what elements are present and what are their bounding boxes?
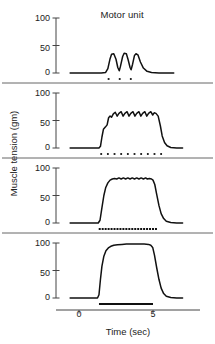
panel-4-ytick-0: 0 [26, 292, 50, 302]
motor-unit-tension-figure: Motor unit Muscle tension (gm) Time (sec… [0, 0, 215, 344]
panel-3-ytick-100: 100 [26, 163, 50, 173]
panel-2-ytick-100: 100 [26, 88, 50, 98]
panel-1-ytick-0: 0 [26, 67, 50, 77]
xtick-label-0: 0 [69, 309, 89, 319]
panel-3-ytick-0: 0 [26, 217, 50, 227]
panel-1-ytick-50: 50 [26, 43, 50, 53]
x-axis-label: Time (sec) [58, 326, 198, 337]
y-axis-label: Muscle tension (gm) [8, 84, 19, 224]
panel-3-ytick-50: 50 [26, 193, 50, 203]
panel-2-ytick-0: 0 [26, 142, 50, 152]
panel-4-ytick-50: 50 [26, 268, 50, 278]
xtick-label-5: 5 [143, 309, 163, 319]
panel-2-ytick-50: 50 [26, 118, 50, 128]
panel-1-ytick-100: 100 [26, 13, 50, 23]
chart-title: Motor unit [72, 9, 172, 20]
panel-4-ytick-100: 100 [26, 238, 50, 248]
